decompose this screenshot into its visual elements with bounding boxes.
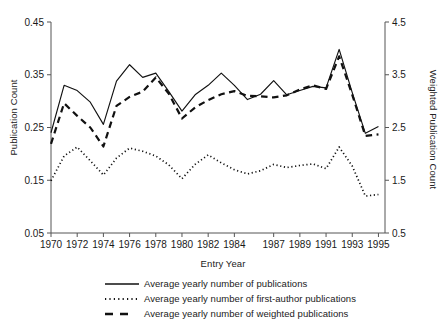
svg-text:3.5: 3.5 (392, 69, 406, 80)
svg-text:1991: 1991 (315, 239, 338, 250)
legend-label-weighted: Average yearly number of weighted public… (144, 308, 348, 319)
svg-text:1989: 1989 (289, 239, 312, 250)
series-line-solid (51, 49, 378, 133)
svg-text:1978: 1978 (145, 239, 168, 250)
svg-text:1974: 1974 (92, 239, 115, 250)
legend-label-first-author: Average yearly number of first-author pu… (144, 293, 356, 304)
series-line-dashed (51, 56, 378, 146)
svg-text:1970: 1970 (40, 239, 63, 250)
chart-legend: Average yearly number of publications Av… (104, 276, 434, 321)
svg-text:1993: 1993 (341, 239, 364, 250)
legend-label-publications: Average yearly number of publications (144, 278, 307, 289)
svg-text:0.45: 0.45 (25, 17, 45, 28)
legend-swatch-solid (104, 278, 140, 290)
svg-text:1976: 1976 (118, 239, 141, 250)
svg-text:1987: 1987 (263, 239, 286, 250)
series-line-dotted (51, 147, 378, 196)
y-axis-right-title: Weighted Publication Count (428, 60, 439, 200)
svg-text:1972: 1972 (66, 239, 89, 250)
line-chart-plot: 0.450.350.250.150.054.53.52.51.50.519701… (0, 0, 439, 270)
svg-text:0.25: 0.25 (25, 122, 45, 133)
svg-text:1995: 1995 (367, 239, 390, 250)
svg-text:0.35: 0.35 (25, 69, 45, 80)
svg-text:0.15: 0.15 (25, 175, 45, 186)
svg-text:4.5: 4.5 (392, 17, 406, 28)
legend-swatch-dashed (104, 308, 140, 320)
chart-figure: 0.450.350.250.150.054.53.52.51.50.519701… (0, 0, 439, 327)
tick-labels: 0.450.350.250.150.054.53.52.51.50.519701… (25, 17, 407, 251)
legend-item-first-author: Average yearly number of first-author pu… (104, 291, 434, 306)
x-axis-title: Entry Year (168, 258, 278, 269)
svg-text:1980: 1980 (171, 239, 194, 250)
svg-text:0.5: 0.5 (392, 228, 406, 239)
legend-swatch-dotted (104, 293, 140, 305)
legend-item-publications: Average yearly number of publications (104, 276, 434, 291)
svg-text:1982: 1982 (197, 239, 220, 250)
svg-text:1.5: 1.5 (392, 175, 406, 186)
y-axis-left-title: Publication Count (8, 58, 19, 178)
svg-text:1984: 1984 (223, 239, 246, 250)
svg-text:2.5: 2.5 (392, 122, 406, 133)
data-series (51, 49, 378, 196)
legend-item-weighted: Average yearly number of weighted public… (104, 306, 434, 321)
svg-text:0.05: 0.05 (25, 228, 45, 239)
